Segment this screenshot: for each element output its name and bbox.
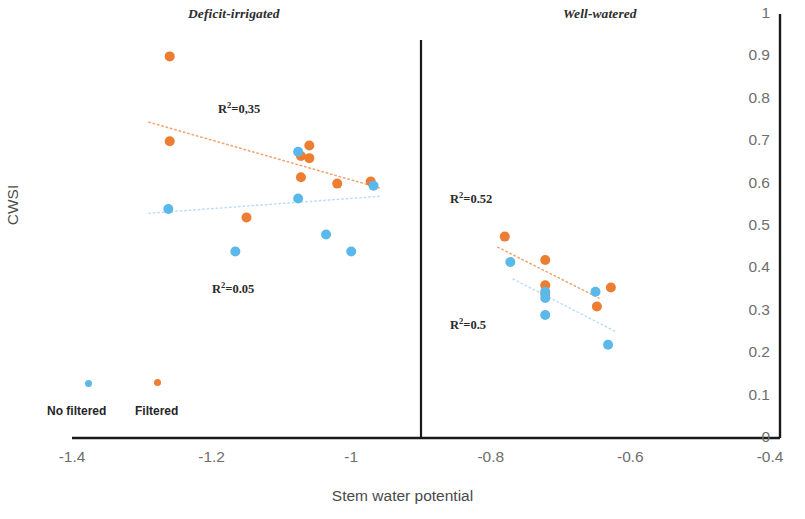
r2-symbol: R2 <box>218 102 231 116</box>
y-tick-label: 0 <box>710 428 770 446</box>
x-tick-label: -1.4 <box>32 448 112 466</box>
data-point-no-filtered <box>230 246 240 256</box>
data-point-no-filtered <box>293 147 303 157</box>
r2-symbol: R2 <box>450 192 463 206</box>
data-point-no-filtered <box>540 310 550 320</box>
data-point-filtered <box>304 153 314 163</box>
trendline-deficit-irrigated-filtered <box>149 122 379 188</box>
y-tick-label: 0.2 <box>710 343 770 361</box>
y-tick-label: 0.6 <box>710 174 770 192</box>
data-point-filtered <box>165 136 175 146</box>
legend-marker-no-filtered <box>85 380 92 387</box>
data-point-no-filtered <box>591 287 601 297</box>
y-tick-label: 0.3 <box>710 301 770 319</box>
data-point-no-filtered <box>369 181 379 191</box>
y-tick-label: 0.5 <box>710 216 770 234</box>
r2-deficit-nofiltered: R2=0.05 <box>212 280 254 297</box>
data-point-filtered <box>165 51 175 61</box>
y-axis-title: CWSI <box>4 170 22 240</box>
data-point-filtered <box>606 282 616 292</box>
data-point-filtered <box>296 172 306 182</box>
data-point-no-filtered <box>346 246 356 256</box>
data-point-no-filtered <box>293 193 303 203</box>
r2-deficit-filtered: R2=0,35 <box>218 100 260 117</box>
data-point-filtered <box>242 213 252 223</box>
x-tick-label: -1 <box>311 448 391 466</box>
x-tick-label: -0.8 <box>451 448 531 466</box>
r2-well-filtered: R2=0.52 <box>450 190 492 207</box>
plot-canvas <box>0 0 805 519</box>
y-tick-label: 0.4 <box>710 258 770 276</box>
y-tick-label: 0.8 <box>710 89 770 107</box>
r2-well-nofiltered: R2=0.5 <box>450 316 486 333</box>
data-point-no-filtered <box>321 229 331 239</box>
legend-marker-filtered <box>154 379 161 386</box>
trendline-deficit-irrigated-no-filtered <box>149 196 379 213</box>
y-tick-label: 0.7 <box>710 131 770 149</box>
y-tick-label: 0.1 <box>710 386 770 404</box>
r2-value: =0.52 <box>463 192 492 206</box>
x-axis-title: Stem water potential <box>0 487 805 505</box>
chart-figure: Deficit-irrigated Well-watered R2=0,35R2… <box>0 0 805 519</box>
legend-label-no-filtered: No filtered <box>47 404 106 418</box>
legend-label-filtered: Filtered <box>135 404 178 418</box>
y-tick-label: 1 <box>710 4 770 22</box>
data-point-filtered <box>332 179 342 189</box>
data-point-no-filtered <box>540 293 550 303</box>
data-point-filtered <box>592 302 602 312</box>
x-tick-label: -0.4 <box>730 448 805 466</box>
r2-value: =0.05 <box>225 282 254 296</box>
r2-value: =0.5 <box>463 318 486 332</box>
r2-symbol: R2 <box>212 282 225 296</box>
panel-title-well-watered: Well-watered <box>563 6 637 22</box>
data-point-no-filtered <box>163 204 173 214</box>
data-point-filtered <box>540 255 550 265</box>
y-tick-label: 0.9 <box>710 46 770 64</box>
data-point-no-filtered <box>603 340 613 350</box>
data-point-filtered <box>304 140 314 150</box>
panel-title-deficit-irrigated: Deficit-irrigated <box>188 6 280 22</box>
data-point-filtered <box>500 232 510 242</box>
data-point-no-filtered <box>505 257 515 267</box>
r2-value: =0,35 <box>231 102 260 116</box>
x-tick-label: -0.6 <box>590 448 670 466</box>
x-tick-label: -1.2 <box>172 448 252 466</box>
r2-symbol: R2 <box>450 318 463 332</box>
